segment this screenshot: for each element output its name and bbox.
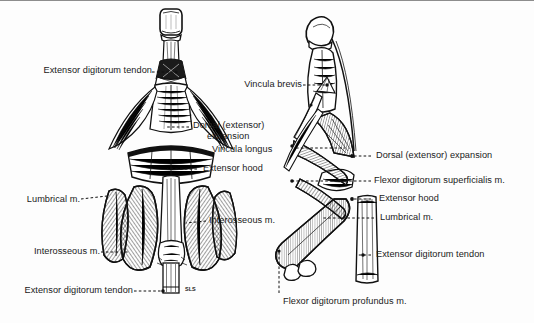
artist-signature: SLS	[185, 286, 196, 292]
distal-phalanx-lateral	[306, 17, 333, 52]
label-vincula-longus: Vincula longus	[212, 144, 272, 155]
label-interosseous-m-right: Interosseous m.	[209, 215, 275, 226]
label-extensor-digitorum-tendon-bottom: Extensor digitorum tendon	[12, 285, 133, 296]
extensor-digitorum-tendon-left	[157, 176, 187, 294]
label-flexor-digitorum-superficialis-m: Flexor digitorum superficialis m.	[374, 175, 505, 186]
label-dorsal-extensor-expansion-lat: Dorsal (extensor) expansion	[376, 150, 492, 161]
distal-phalanx-dorsal	[160, 9, 182, 43]
label-dorsal-extensor-expansion: Dorsal (extensor) expansion	[193, 120, 289, 142]
label-dorsal-expansion-line1: Dorsal (extensor)	[193, 120, 264, 130]
anatomy-illustration: SLS	[0, 1, 534, 323]
label-extensor-digitorum-tendon-lat: Extensor digitorum tendon	[376, 249, 485, 260]
label-extensor-hood-lat: Extensor hood	[379, 193, 439, 204]
extensor-fibres-left	[109, 87, 157, 150]
label-lumbrical-m-lat: Lumbrical m.	[380, 212, 433, 223]
anatomy-figure-root: SLS	[0, 0, 534, 323]
label-interosseous-m-left: Interosseous m.	[14, 246, 100, 257]
label-extensor-hood: Extensor hood	[203, 163, 263, 174]
label-vincula-brevis: Vincula brevis	[234, 79, 302, 90]
extensor-digitorum-tendon-lateral	[356, 196, 378, 284]
label-flexor-digitorum-profundus-m: Flexor digitorum profundus m.	[283, 296, 407, 307]
label-dorsal-expansion-line2: expansion	[193, 131, 249, 142]
dorsal-extensor-expansion-lateral	[314, 113, 354, 157]
label-lumbrical-m: Lumbrical m.	[14, 194, 80, 205]
flexor-digitorum-profundus-muscle	[276, 199, 350, 280]
label-extensor-digitorum-tendon-top: Extensor digitorum tendon	[12, 65, 152, 76]
lateral-view-figure	[276, 17, 378, 283]
